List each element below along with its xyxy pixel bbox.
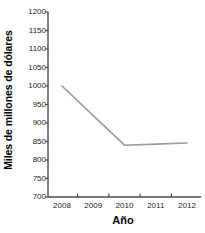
x-axis-title: Año — [48, 214, 198, 226]
data-series-line — [62, 86, 187, 145]
plot-area — [0, 0, 205, 233]
line-chart: Miles de millones de dólares 70075080085… — [0, 0, 205, 233]
axis-lines — [48, 12, 201, 197]
